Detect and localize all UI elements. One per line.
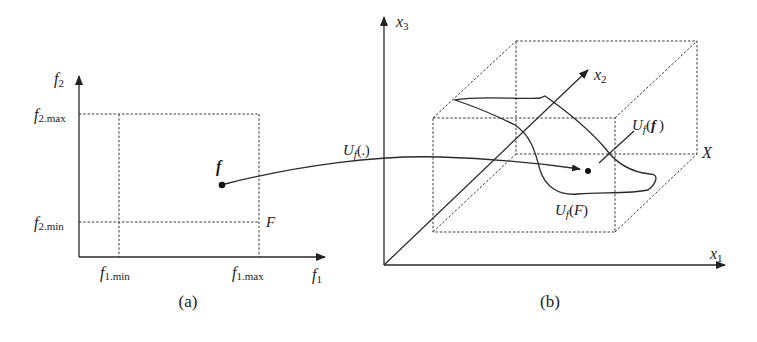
f1-min-label: f1.min [100,264,130,282]
f1-max-label: f1.max [232,264,264,282]
f2-max-label: f2.max [34,106,66,124]
surface-uf-f-label: Uf(F) [555,202,588,220]
caption-b: (b) [540,292,560,311]
mapping-arrow: Uf(.) [225,142,580,184]
region-f-label: F [265,214,276,230]
x1-axis-label: x1 [709,245,723,264]
point-uf-f-label: Uf(f) [632,117,664,135]
f2-min-label: f2.min [34,214,64,232]
point-f [219,182,226,189]
f2-axis-label: f2 [54,70,64,89]
x2-axis [384,70,588,265]
f1-axis-label: f1 [312,266,322,285]
mapping-label: Uf(.) [343,142,370,160]
panel-b: x3 x1 x2 X Uf(F) Uf(f) [384,13,725,311]
panel-a: f2 f1 f2.max f2.min f1.min f1.max F f (a… [34,70,325,311]
x3-axis-label: x3 [395,13,409,32]
x2-axis-label: x2 [593,66,607,85]
point-f-label: f [216,158,223,176]
caption-a: (a) [179,292,198,311]
surface-uf-f [455,96,656,194]
mapping-diagram: f2 f1 f2.max f2.min f1.min f1.max F f (a… [0,0,757,342]
point-uf-f [585,168,591,174]
box-x-label: X [701,144,713,161]
